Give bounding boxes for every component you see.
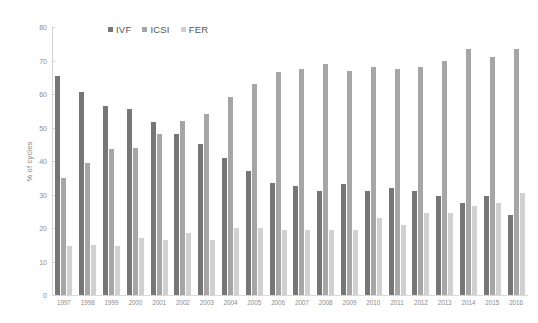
bar-fer-2003[interactable] (210, 240, 215, 295)
legend-label-icsi: ICSI (150, 24, 169, 35)
bar-ivf-2006[interactable] (270, 183, 275, 295)
y-axis-tick-label: 10 (39, 258, 47, 265)
x-axis-label-2013: 2013 (433, 299, 457, 306)
bar-icsi-2012[interactable] (418, 67, 423, 295)
bar-ivf-2008[interactable] (317, 191, 322, 295)
x-axis-label-2009: 2009 (338, 299, 362, 306)
legend-item-ivf[interactable]: IVF (108, 24, 131, 35)
x-axis-label-1998: 1998 (76, 299, 100, 306)
bar-icsi-2008[interactable] (323, 64, 328, 295)
x-axis-label-2007: 2007 (290, 299, 314, 306)
bar-ivf-2011[interactable] (389, 188, 394, 295)
bar-fer-2016[interactable] (520, 193, 525, 295)
bar-fer-2006[interactable] (282, 230, 287, 295)
bar-icsi-2016[interactable] (514, 49, 519, 295)
bar-group (100, 27, 124, 295)
bar-icsi-2007[interactable] (299, 69, 304, 295)
x-axis-label-2000: 2000 (123, 299, 147, 306)
bar-fer-2012[interactable] (424, 213, 429, 295)
x-axis-label-2010: 2010 (361, 299, 385, 306)
bar-ivf-2009[interactable] (341, 184, 346, 295)
x-axis-label-2001: 2001 (147, 299, 171, 306)
bar-ivf-2005[interactable] (246, 171, 251, 295)
bar-icsi-2003[interactable] (204, 114, 209, 295)
x-axis-labels: 1997199819992000200120022003200420052006… (52, 299, 528, 306)
y-axis-title: % of cycles (18, 0, 40, 323)
bar-fer-2009[interactable] (353, 230, 358, 295)
bar-ivf-2000[interactable] (127, 109, 132, 295)
bar-icsi-2015[interactable] (490, 57, 495, 295)
bar-fer-2014[interactable] (472, 206, 477, 295)
bar-group (52, 27, 76, 295)
bar-groups (52, 27, 528, 295)
bar-fer-2011[interactable] (401, 225, 406, 295)
bar-ivf-2015[interactable] (484, 196, 489, 295)
bar-icsi-2011[interactable] (395, 69, 400, 295)
bar-ivf-2010[interactable] (365, 191, 370, 295)
bar-icsi-2002[interactable] (180, 121, 185, 295)
x-axis-line (52, 295, 528, 296)
legend-item-fer[interactable]: FER (181, 24, 209, 35)
bar-icsi-2000[interactable] (133, 148, 138, 295)
bar-group (314, 27, 338, 295)
bar-icsi-1997[interactable] (61, 178, 66, 295)
y-axis-tick-label: 60 (39, 91, 47, 98)
bar-group (504, 27, 528, 295)
bar-fer-2004[interactable] (234, 228, 239, 295)
bar-icsi-2004[interactable] (228, 97, 233, 295)
bar-ivf-1998[interactable] (79, 92, 84, 295)
bar-icsi-2013[interactable] (442, 61, 447, 296)
bar-fer-2008[interactable] (329, 230, 334, 295)
bar-icsi-2009[interactable] (347, 71, 352, 295)
legend-swatch-icsi (142, 27, 147, 32)
y-axis-tick-label: 50 (39, 124, 47, 131)
legend-label-fer: FER (189, 24, 209, 35)
y-axis-tick-label: 20 (39, 225, 47, 232)
bar-ivf-2003[interactable] (198, 144, 203, 295)
bar-fer-2000[interactable] (139, 238, 144, 295)
bar-fer-2010[interactable] (377, 218, 382, 295)
bar-ivf-2016[interactable] (508, 215, 513, 295)
bar-ivf-2002[interactable] (174, 134, 179, 295)
bar-fer-1998[interactable] (91, 245, 96, 295)
bar-icsi-2006[interactable] (276, 72, 281, 295)
bar-ivf-2004[interactable] (222, 158, 227, 295)
bar-ivf-2013[interactable] (436, 196, 441, 295)
legend-swatch-ivf (108, 27, 113, 32)
bar-group (195, 27, 219, 295)
bar-fer-1997[interactable] (67, 246, 72, 295)
chart-container: % of cycles 80706050403020100 1997199819… (0, 0, 538, 323)
bar-fer-2001[interactable] (163, 240, 168, 295)
x-axis-label-2015: 2015 (480, 299, 504, 306)
x-axis-label-2016: 2016 (504, 299, 528, 306)
bar-icsi-1999[interactable] (109, 149, 114, 295)
bar-fer-2015[interactable] (496, 203, 501, 295)
y-axis-tick-label: 30 (39, 191, 47, 198)
bar-ivf-2007[interactable] (293, 186, 298, 295)
bar-icsi-2005[interactable] (252, 84, 257, 295)
x-axis-label-2002: 2002 (171, 299, 195, 306)
bar-ivf-2012[interactable] (412, 191, 417, 295)
bar-fer-2005[interactable] (258, 228, 263, 295)
bar-fer-2002[interactable] (186, 233, 191, 295)
bar-group (219, 27, 243, 295)
x-axis-label-2003: 2003 (195, 299, 219, 306)
bar-fer-2013[interactable] (448, 213, 453, 295)
bar-icsi-2010[interactable] (371, 67, 376, 295)
bar-ivf-2014[interactable] (460, 203, 465, 295)
bar-icsi-2001[interactable] (157, 134, 162, 295)
bar-group (385, 27, 409, 295)
bar-ivf-1997[interactable] (55, 76, 60, 295)
bar-ivf-1999[interactable] (103, 106, 108, 295)
legend-item-icsi[interactable]: ICSI (142, 24, 169, 35)
x-axis-label-2014: 2014 (457, 299, 481, 306)
bar-ivf-2001[interactable] (151, 122, 156, 295)
bar-group (147, 27, 171, 295)
bar-icsi-1998[interactable] (85, 163, 90, 295)
bar-group (480, 27, 504, 295)
bar-fer-2007[interactable] (305, 230, 310, 295)
bar-fer-1999[interactable] (115, 246, 120, 295)
bar-icsi-2014[interactable] (466, 49, 471, 295)
bar-group (338, 27, 362, 295)
x-axis-label-2012: 2012 (409, 299, 433, 306)
